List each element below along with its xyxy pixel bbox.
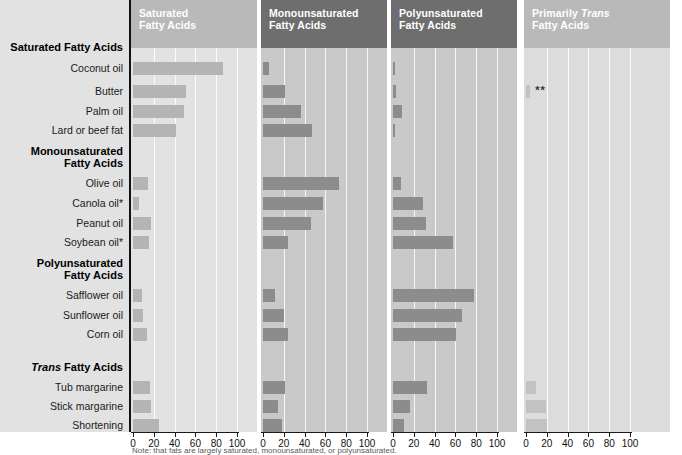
bar bbox=[393, 124, 395, 137]
bar bbox=[263, 217, 311, 230]
bar-annotation-marker: ** bbox=[535, 85, 546, 95]
row-label-soybean-oil: Soybean oil* bbox=[64, 237, 123, 248]
row-label-safflower-oil: Safflower oil bbox=[66, 290, 123, 301]
gridline-60 bbox=[325, 48, 326, 432]
panel-monounsaturated: MonounsaturatedFatty Acids020406080100 bbox=[261, 0, 387, 432]
bar bbox=[133, 62, 223, 75]
axis-tick-0 bbox=[133, 432, 134, 437]
row-label-butter: Butter bbox=[95, 86, 123, 97]
axis-tick-0 bbox=[526, 432, 527, 437]
bar bbox=[526, 381, 536, 394]
axis-tick-60 bbox=[325, 432, 326, 437]
plot-area-monounsaturated bbox=[261, 48, 387, 432]
axis-tick-60 bbox=[588, 432, 589, 437]
chart-footnote: Note: that fats are largely saturated, m… bbox=[132, 446, 672, 455]
bar bbox=[263, 197, 323, 210]
gridline-100 bbox=[497, 48, 498, 432]
bar bbox=[133, 400, 151, 413]
bar bbox=[133, 419, 159, 432]
bar bbox=[393, 419, 404, 432]
bar bbox=[393, 197, 423, 210]
bar bbox=[133, 381, 150, 394]
gridline-60 bbox=[195, 48, 196, 432]
axis-tick-40 bbox=[305, 432, 306, 437]
row-group-heading: Saturated Fatty Acids bbox=[10, 42, 123, 53]
bar bbox=[526, 85, 530, 98]
axis-line bbox=[391, 432, 499, 433]
bar bbox=[133, 105, 184, 118]
row-group-heading: Trans Fatty Acids bbox=[31, 362, 123, 373]
gridline-60 bbox=[455, 48, 456, 432]
axis-tick-60 bbox=[195, 432, 196, 437]
axis-tick-40 bbox=[568, 432, 569, 437]
bar bbox=[393, 105, 402, 118]
bar bbox=[393, 217, 426, 230]
plot-area-trans: ** bbox=[524, 48, 670, 432]
axis-tick-40 bbox=[435, 432, 436, 437]
bar bbox=[133, 85, 186, 98]
gridline-100 bbox=[237, 48, 238, 432]
axis-line bbox=[261, 432, 369, 433]
bar bbox=[263, 177, 339, 190]
bar bbox=[133, 289, 142, 302]
row-label-corn-oil: Corn oil bbox=[87, 329, 123, 340]
bar bbox=[393, 309, 462, 322]
bar bbox=[263, 400, 278, 413]
bar bbox=[526, 419, 547, 432]
axis-tick-20 bbox=[284, 432, 285, 437]
bar bbox=[393, 177, 401, 190]
axis-line bbox=[524, 432, 632, 433]
gridline-80 bbox=[476, 48, 477, 432]
bar bbox=[263, 419, 282, 432]
bar bbox=[393, 381, 427, 394]
bar bbox=[133, 328, 147, 341]
bar bbox=[263, 328, 288, 341]
row-label-palm-oil: Palm oil bbox=[86, 106, 123, 117]
bar bbox=[393, 236, 453, 249]
axis-tick-0 bbox=[263, 432, 264, 437]
bar bbox=[393, 328, 456, 341]
axis-tick-20 bbox=[547, 432, 548, 437]
axis-tick-20 bbox=[414, 432, 415, 437]
fatty-acid-composition-chart: Saturated Fatty AcidsMonounsaturatedFatt… bbox=[0, 0, 682, 455]
row-label-olive-oil: Olive oil bbox=[86, 178, 123, 189]
axis-tick-100 bbox=[367, 432, 368, 437]
row-label-sunflower-oil: Sunflower oil bbox=[63, 310, 123, 321]
bar bbox=[263, 236, 288, 249]
axis-tick-0 bbox=[393, 432, 394, 437]
axis-tick-20 bbox=[154, 432, 155, 437]
gridline-20 bbox=[547, 48, 548, 432]
panel-header-monounsaturated: MonounsaturatedFatty Acids bbox=[261, 0, 387, 48]
gridline-80 bbox=[216, 48, 217, 432]
gridline-40 bbox=[305, 48, 306, 432]
bar bbox=[393, 85, 396, 98]
bar bbox=[526, 400, 546, 413]
axis-tick-100 bbox=[497, 432, 498, 437]
panel-header-polyunsaturated: PolyunsaturatedFatty Acids bbox=[391, 0, 517, 48]
axis-tick-80 bbox=[216, 432, 217, 437]
panel-saturated: SaturatedFatty Acids020406080100 bbox=[131, 0, 257, 432]
bar bbox=[133, 124, 176, 137]
row-label-canola-oil: Canola oil* bbox=[72, 198, 123, 209]
bar bbox=[263, 85, 285, 98]
axis-tick-80 bbox=[609, 432, 610, 437]
bar bbox=[133, 236, 149, 249]
axis-tick-40 bbox=[175, 432, 176, 437]
bar bbox=[263, 289, 275, 302]
axis-tick-80 bbox=[346, 432, 347, 437]
bar bbox=[133, 197, 139, 210]
bar bbox=[133, 177, 148, 190]
panel-trans: Primarily TransFatty Acids**020406080100 bbox=[524, 0, 670, 432]
panel-header-trans: Primarily TransFatty Acids bbox=[524, 0, 670, 48]
gridline-80 bbox=[346, 48, 347, 432]
gridline-100 bbox=[630, 48, 631, 432]
row-label-shortening: Shortening bbox=[72, 420, 123, 431]
bar bbox=[393, 400, 410, 413]
bar bbox=[133, 309, 143, 322]
bar bbox=[393, 62, 395, 75]
gridline-60 bbox=[588, 48, 589, 432]
plot-area-polyunsaturated bbox=[391, 48, 517, 432]
axis-tick-80 bbox=[476, 432, 477, 437]
row-group-heading: MonounsaturatedFatty Acids bbox=[31, 145, 123, 169]
bar bbox=[263, 62, 269, 75]
